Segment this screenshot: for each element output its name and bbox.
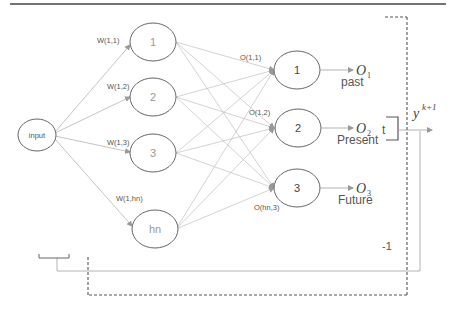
output-1-caption: past (341, 75, 364, 89)
output-1-subscript: 1 (367, 71, 371, 80)
input-node-label: input (29, 131, 46, 140)
weight-label-w12: W(1,2) (107, 82, 130, 91)
hidden-node-1: 1 (130, 23, 176, 61)
output-node-3-label: 3 (294, 182, 300, 194)
weight-label-o11: O(1,1) (240, 53, 262, 62)
hidden-node-1-label: 1 (150, 36, 156, 48)
output-node-3: 3 (274, 169, 320, 207)
output-node-1-label: 1 (294, 64, 300, 76)
aggregate-fragment: t (382, 123, 386, 137)
weight-label-ohn3: O(hn,3) (254, 203, 280, 212)
hidden-node-3: 3 (130, 134, 176, 172)
delay-bracket (39, 254, 69, 258)
final-output-symbol: y k+1 (411, 102, 437, 121)
neural-network-diagram: input 1 2 3 hn W(1,1) W(1,2) W(1,3) W(1,… (0, 0, 454, 312)
output-2-caption: Present (337, 133, 379, 147)
hidden-output-edges (176, 42, 274, 229)
hidden-node-3-label: 3 (150, 147, 156, 159)
output-node-2-label: 2 (295, 122, 301, 134)
weight-label-w13: W(1,3) (107, 138, 130, 147)
weight-label-o12: O(1,2) (249, 108, 271, 117)
final-output-letter: y (411, 106, 420, 121)
delay-label: -1 (382, 240, 392, 252)
hidden-node-hn: hn (132, 210, 178, 248)
output-node-1: 1 (274, 51, 320, 89)
input-node: input (18, 119, 56, 151)
weight-label-w1hn: W(1,hn) (116, 194, 143, 203)
hidden-node-2: 2 (130, 78, 176, 116)
hidden-node-hn-label: hn (149, 223, 161, 235)
output-3-caption: Future (338, 193, 373, 207)
final-output-superscript: k+1 (422, 102, 437, 112)
weight-label-w11: W(1,1) (97, 36, 120, 45)
hidden-node-2-label: 2 (150, 91, 156, 103)
output-node-2: 2 (275, 109, 321, 147)
aggregate-bracket (386, 117, 398, 140)
